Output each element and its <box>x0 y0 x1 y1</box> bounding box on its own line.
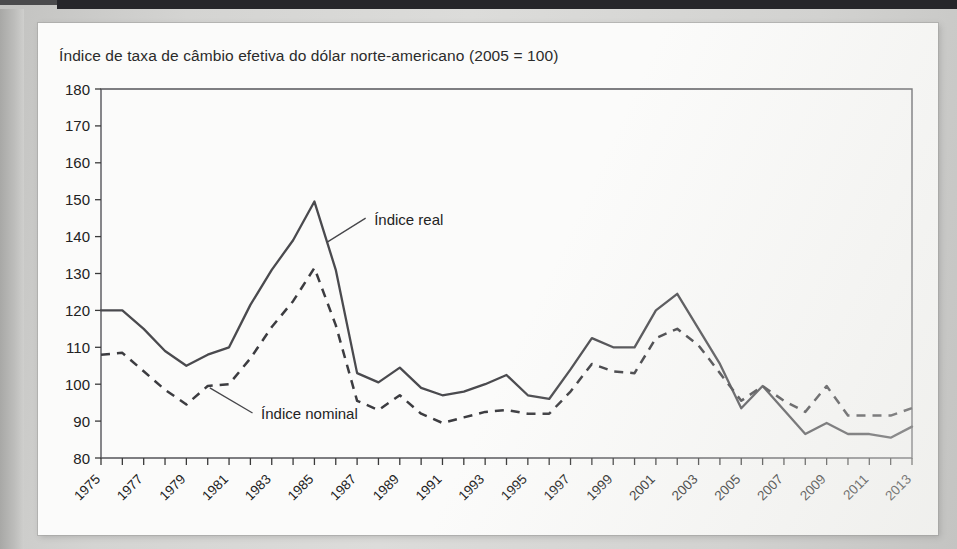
page-edge-strip <box>0 0 57 5</box>
x-tick-label: 1981 <box>199 472 231 504</box>
y-tick-label: 100 <box>65 376 90 393</box>
x-tick-label: 1999 <box>583 472 615 504</box>
x-tick-label: 1977 <box>114 472 146 504</box>
y-tick-label: 180 <box>65 81 90 98</box>
annotation-leader-nominal <box>210 388 253 413</box>
x-tick-label: 1985 <box>285 472 317 504</box>
chart-plot-area: 8090100110120130140150160170180197519771… <box>38 23 938 535</box>
x-tick-label: 1993 <box>455 472 487 504</box>
annotation-label-nominal: Índice nominal <box>261 405 358 422</box>
x-tick-label: 2013 <box>882 472 914 504</box>
series-line-real <box>101 202 912 438</box>
y-tick-label: 80 <box>73 450 90 467</box>
figure-card: Índice de taxa de câmbio efetiva do dóla… <box>38 23 938 535</box>
plot-frame <box>101 89 912 458</box>
page-gutter <box>0 9 24 549</box>
series-line-nominal <box>101 268 912 423</box>
x-tick-label: 1975 <box>71 472 103 504</box>
x-tick-label: 1983 <box>242 472 274 504</box>
x-tick-label: 2005 <box>712 472 744 504</box>
y-tick-label: 160 <box>65 154 90 171</box>
x-tick-label: 1995 <box>498 472 530 504</box>
x-tick-label: 2009 <box>797 472 829 504</box>
scanned-page-background: Índice de taxa de câmbio efetiva do dóla… <box>0 0 957 549</box>
top-dark-bar <box>57 0 957 9</box>
x-tick-label: 2003 <box>669 472 701 504</box>
y-tick-label: 140 <box>65 228 90 245</box>
y-tick-label: 110 <box>66 339 90 356</box>
line-chart-svg: 8090100110120130140150160170180197519771… <box>38 23 938 535</box>
annotation-leader-real <box>327 218 365 242</box>
x-tick-label: 1997 <box>541 472 573 504</box>
x-tick-label: 1987 <box>327 472 359 504</box>
x-tick-label: 2011 <box>840 472 871 503</box>
y-tick-label: 150 <box>65 191 90 208</box>
y-tick-label: 170 <box>65 117 90 134</box>
y-tick-label: 120 <box>65 302 90 319</box>
x-tick-label: 1989 <box>370 472 402 504</box>
x-tick-label: 2001 <box>626 472 658 504</box>
x-tick-label: 2007 <box>754 472 786 504</box>
y-tick-label: 90 <box>73 413 90 430</box>
x-tick-label: 1991 <box>413 472 445 504</box>
y-tick-label: 130 <box>65 265 90 282</box>
x-tick-label: 1979 <box>157 472 189 504</box>
annotation-label-real: Índice real <box>374 211 443 228</box>
